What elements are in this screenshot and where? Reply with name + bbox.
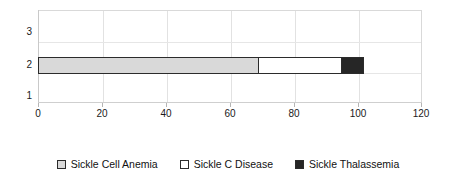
legend-swatch-icon-sickle-c-disease: [180, 160, 189, 169]
legend-item-sickle-c-disease[interactable]: Sickle C Disease: [180, 158, 273, 170]
x-tick-label-120: 120: [401, 108, 441, 120]
bar-segment-sickle-c-disease[interactable]: [258, 57, 342, 74]
x-tick-label-100: 100: [338, 108, 378, 120]
x-tick-label-0: 0: [18, 108, 58, 120]
bar-stack-category-2: [38, 57, 364, 74]
x-tick-mark-80: [294, 103, 295, 107]
legend-label-sickle-cell-anemia: Sickle Cell Anemia: [71, 158, 158, 170]
legend-label-sickle-c-disease: Sickle C Disease: [194, 158, 273, 170]
y-tick-label-1: 1: [10, 90, 32, 101]
x-tick-label-20: 20: [82, 108, 122, 120]
chart-legend: Sickle Cell Anemia Sickle C Disease Sick…: [0, 158, 456, 170]
x-tick-mark-100: [358, 103, 359, 107]
x-tick-mark-20: [102, 103, 103, 107]
legend-label-sickle-thalassemia: Sickle Thalassemia: [309, 158, 399, 170]
x-tick-mark-60: [230, 103, 231, 107]
stacked-bar-chart: 3 2 1 0 20 40 60 80 100 120 Sickle Cell …: [0, 0, 456, 188]
x-tick-label-80: 80: [274, 108, 314, 120]
legend-item-sickle-cell-anemia[interactable]: Sickle Cell Anemia: [57, 158, 158, 170]
bar-segment-sickle-thalassemia[interactable]: [341, 57, 364, 74]
gridline-horizontal-upper: [39, 42, 421, 43]
x-tick-label-40: 40: [146, 108, 186, 120]
y-tick-label-3: 3: [10, 26, 32, 37]
legend-item-sickle-thalassemia[interactable]: Sickle Thalassemia: [295, 158, 399, 170]
legend-swatch-icon-sickle-thalassemia: [295, 160, 304, 169]
x-tick-mark-120: [421, 103, 422, 107]
x-tick-mark-0: [38, 103, 39, 107]
bar-segment-sickle-cell-anemia[interactable]: [38, 57, 259, 74]
x-tick-mark-40: [166, 103, 167, 107]
legend-swatch-icon-sickle-cell-anemia: [57, 160, 66, 169]
x-tick-label-60: 60: [210, 108, 250, 120]
y-tick-label-2: 2: [10, 59, 32, 70]
